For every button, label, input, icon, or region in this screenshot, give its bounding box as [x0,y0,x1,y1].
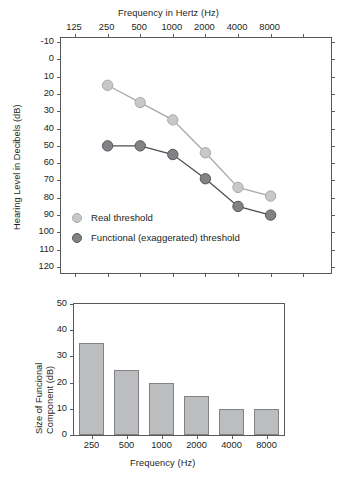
bar-1000 [149,383,174,435]
barchart-x-axis-title: Frequency (Hz) [130,458,195,468]
legend-item-label: Functional (exaggerated) threshold [91,232,240,243]
real-threshold-marker-icon [72,213,82,223]
audiogram-legend: Real thresholdFunctional (exaggerated) t… [72,209,240,249]
barchart-y-tick-40: 40 [57,324,67,334]
audiogram-y-tick-120: 120 [38,261,54,271]
audiogram-x-tick-4000: 4000 [227,22,248,32]
barchart-x-tick-8000: 8000 [256,440,277,450]
audiogram-point [265,191,275,201]
barchart-y-axis-title-line2: Component (dB) [45,366,55,434]
bar-500 [114,370,139,436]
barchart-x-tick-250: 250 [84,440,100,450]
audiogram-point [135,97,145,107]
audiogram-y-tick-110: 110 [39,244,54,254]
barchart-x-tick-1000: 1000 [151,440,172,450]
audiogram-x-tick-250: 250 [99,22,115,32]
barchart-y-tick-30: 30 [57,350,67,360]
barchart-y-tick-50: 50 [57,298,67,308]
bar-2000 [184,396,209,435]
barchart-x-tick-2000: 2000 [186,440,207,450]
audiogram-point [200,174,210,184]
functional-component-barchart-panel: Size of Funcional Component (dB) Frequen… [0,295,339,478]
audiogram-x-tick-125: 125 [66,22,82,32]
audiogram-y-tick-0: 0 [49,53,54,63]
audiogram-x-tick-1000: 1000 [161,22,182,32]
audiogram-point [168,115,178,125]
audiogram-y-tick-100: 100 [38,226,54,236]
bar-4000 [219,409,244,435]
figure-audiogram-and-functional-component: Frequency in Hertz (Hz) Hearing Level in… [0,0,339,478]
functional-threshold-marker-icon [72,233,82,243]
audiogram-y-axis-title: Hearing Level in Decibels (dB) [12,104,22,230]
audiogram-y-tick-20: 20 [44,88,54,98]
barchart-y-tick-10: 10 [57,403,67,413]
barchart-y-tick-0: 0 [62,429,67,439]
audiogram-panel: Frequency in Hertz (Hz) Hearing Level in… [0,0,339,290]
audiogram-top-axis-title: Frequency in Hertz (Hz) [118,8,219,18]
audiogram-y-tick-90: 90 [44,209,54,219]
audiogram-y-tick-60: 60 [44,157,54,167]
audiogram-x-tick-500: 500 [131,22,147,32]
audiogram-y-tick-30: 30 [44,105,54,115]
audiogram-point [168,149,178,159]
legend-item-label: Real threshold [91,212,153,223]
audiogram-point [233,182,243,192]
audiogram-x-tick-2000: 2000 [194,22,215,32]
audiogram-y-tick-50: 50 [44,140,54,150]
audiogram-y-tick--10: -10 [41,36,54,46]
barchart-y-tick-20: 20 [57,377,67,387]
audiogram-point [265,210,275,220]
barchart-x-tick-500: 500 [119,440,135,450]
audiogram-point [102,141,112,151]
audiogram-line-functional [108,146,271,215]
audiogram-y-tick-10: 10 [44,71,54,81]
audiogram-x-tick-8000: 8000 [259,22,280,32]
legend-item-real-threshold: Real threshold [72,209,240,226]
audiogram-line-real [108,85,271,196]
barchart-x-tick-4000: 4000 [221,440,242,450]
legend-item-functional-threshold: Functional (exaggerated) threshold [72,229,240,246]
audiogram-y-tick-80: 80 [44,192,54,202]
barchart-y-axis-title-line1: Size of Funcional [34,363,44,434]
audiogram-y-tick-70: 70 [44,174,54,184]
bar-8000 [254,409,279,435]
audiogram-point [135,141,145,151]
audiogram-point [200,148,210,158]
audiogram-point [102,80,112,90]
barchart-plot-area [73,303,285,436]
audiogram-y-tick-40: 40 [44,123,54,133]
barchart-bars [74,304,284,435]
bar-250 [79,343,104,435]
